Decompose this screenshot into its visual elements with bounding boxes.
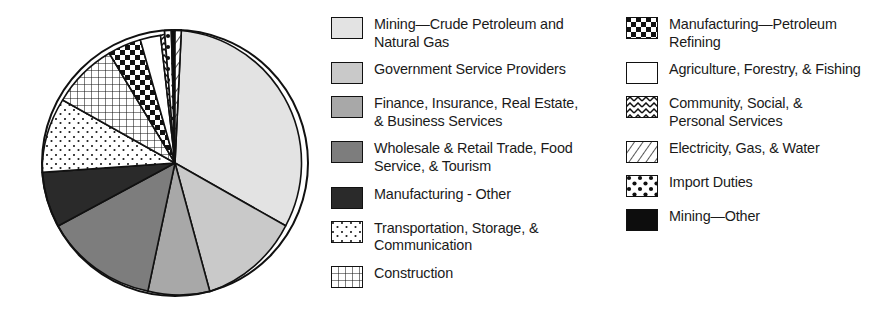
swatch-manufacturing-petroleum-refining xyxy=(626,17,658,39)
legend-label-electricity-gas-water: Electricity, Gas, & Water xyxy=(669,140,820,158)
legend-label-manufacturing-petroleum-refining: Manufacturing—Petroleum Refining xyxy=(669,16,837,51)
legend-item-mining-other[interactable]: Mining—Other xyxy=(626,208,891,231)
swatch-mining-other xyxy=(626,209,658,231)
legend-label-mining-crude-petroleum: Mining—Crude Petroleum and Natural Gas xyxy=(374,16,564,51)
legend-item-manufacturing-petroleum-refining[interactable]: Manufacturing—Petroleum Refining xyxy=(626,16,891,51)
legend-label-mining-other: Mining—Other xyxy=(669,208,760,226)
legend-item-community-social-personal[interactable]: Community, Social, & Personal Services xyxy=(626,95,891,130)
legend-label-finance-insurance: Finance, Insurance, Real Estate, & Busin… xyxy=(374,95,578,130)
pie-chart-figure: Mining—Crude Petroleum and Natural Gas G… xyxy=(0,0,891,323)
legend-label-manufacturing-other: Manufacturing - Other xyxy=(374,186,511,204)
legend-label-construction: Construction xyxy=(374,265,453,283)
legend-item-manufacturing-other[interactable]: Manufacturing - Other xyxy=(331,186,621,209)
legend-item-import-duties[interactable]: Import Duties xyxy=(626,174,891,197)
legend-item-finance-insurance[interactable]: Finance, Insurance, Real Estate, & Busin… xyxy=(331,95,621,130)
swatch-government-service-providers xyxy=(331,62,363,84)
legend-label-community-social-personal: Community, Social, & Personal Services xyxy=(669,95,803,130)
swatch-import-duties xyxy=(626,175,658,197)
legend-label-wholesale-retail-trade: Wholesale & Retail Trade, Food Service, … xyxy=(374,140,573,175)
swatch-finance-insurance xyxy=(331,96,363,118)
swatch-agriculture-forestry-fishing xyxy=(626,62,658,84)
swatch-community-social-personal xyxy=(626,96,658,118)
swatch-manufacturing-other xyxy=(331,187,363,209)
legend-left-column: Mining—Crude Petroleum and Natural Gas G… xyxy=(331,16,621,299)
legend-item-government-service-providers[interactable]: Government Service Providers xyxy=(331,61,621,84)
legend-label-agriculture-forestry-fishing: Agriculture, Forestry, & Fishing xyxy=(669,61,861,79)
legend-item-mining-crude-petroleum[interactable]: Mining—Crude Petroleum and Natural Gas xyxy=(331,16,621,51)
swatch-construction xyxy=(331,266,363,288)
swatch-wholesale-retail-trade xyxy=(331,141,363,163)
swatch-electricity-gas-water xyxy=(626,141,658,163)
legend-item-agriculture-forestry-fishing[interactable]: Agriculture, Forestry, & Fishing xyxy=(626,61,891,84)
pie-chart-graphic xyxy=(0,0,320,323)
swatch-transportation-storage xyxy=(331,221,363,243)
legend-item-electricity-gas-water[interactable]: Electricity, Gas, & Water xyxy=(626,140,891,163)
pie-svg xyxy=(0,0,320,323)
legend-label-government-service-providers: Government Service Providers xyxy=(374,61,566,79)
legend-item-construction[interactable]: Construction xyxy=(331,265,621,288)
legend-item-wholesale-retail-trade[interactable]: Wholesale & Retail Trade, Food Service, … xyxy=(331,140,621,175)
swatch-mining-crude-petroleum xyxy=(331,17,363,39)
legend-right-column: Manufacturing—Petroleum Refining Agricul… xyxy=(626,16,891,242)
legend-label-transportation-storage: Transportation, Storage, & Communication xyxy=(374,220,538,255)
legend-item-transportation-storage[interactable]: Transportation, Storage, & Communication xyxy=(331,220,621,255)
legend-label-import-duties: Import Duties xyxy=(669,174,753,192)
